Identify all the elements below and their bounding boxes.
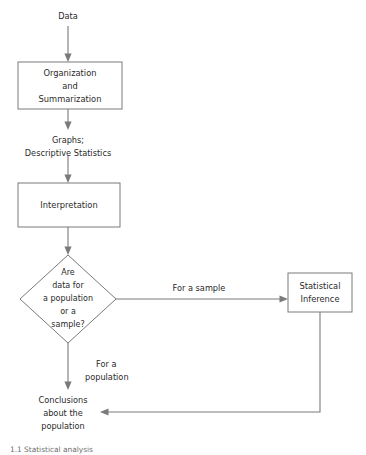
node-statistical-inference: Statistical Inference — [288, 273, 352, 312]
node-label-data: Data — [58, 11, 78, 21]
edge-organization-to-graphs — [64, 109, 71, 130]
arrow-head-icon — [64, 122, 71, 131]
edge-inference-to-conclusions — [100, 312, 320, 416]
node-label-graphs-line2: Descriptive Statistics — [25, 148, 111, 158]
node-label-decision-line3: a population — [43, 294, 93, 303]
node-label-graphs-line1: Graphs; — [52, 135, 84, 145]
arrow-head-icon — [64, 54, 71, 63]
edge-data-to-organization — [64, 26, 71, 62]
edge-decision-to-conclusions — [64, 343, 71, 390]
edge-decision-to-inference — [116, 295, 288, 302]
edge-label-for-a-population-line1: For a — [96, 359, 116, 369]
flowchart-canvas: Data Organization and Summarization Grap… — [0, 0, 366, 455]
node-label-organization-line2: and — [62, 81, 78, 91]
node-label-organization-line3: Summarization — [39, 94, 102, 104]
edge-label-for-a-population-line2: population — [85, 372, 129, 382]
node-label-inference-line2: Inference — [301, 294, 340, 304]
node-label-interpretation: Interpretation — [40, 200, 97, 210]
arrow-head-icon — [64, 382, 71, 391]
node-label-decision-line5: sample? — [51, 320, 84, 329]
node-label-inference-line1: Statistical — [300, 281, 341, 291]
node-decision-population-or-sample: Are data for a population or a sample? — [20, 255, 116, 343]
edge-interpretation-to-decision — [64, 227, 71, 255]
edge-label-for-a-sample: For a sample — [173, 283, 226, 293]
arrow-head-icon — [100, 408, 109, 415]
node-organization-summarization: Organization and Summarization — [18, 62, 122, 109]
arrow-head-icon — [64, 175, 71, 184]
node-label-conclusions-line3: population — [41, 421, 85, 431]
node-label-organization-line1: Organization — [43, 68, 96, 78]
node-label-conclusions-line2: about the — [43, 408, 83, 418]
figure-caption: 1.1 Statistical analysis — [10, 445, 93, 454]
node-label-decision-line4: or a — [60, 307, 76, 316]
node-conclusions-about-population: Conclusions about the population — [39, 395, 88, 431]
arrow-head-icon — [64, 247, 71, 256]
node-label-decision-line2: data for — [52, 281, 84, 290]
node-interpretation: Interpretation — [18, 183, 120, 227]
node-label-decision-line1: Are — [61, 268, 75, 277]
node-label-conclusions-line1: Conclusions — [39, 395, 88, 405]
flowchart-figure: Data Organization and Summarization Grap… — [0, 0, 366, 455]
node-graphs-descriptive-statistics: Graphs; Descriptive Statistics — [25, 135, 111, 158]
node-box-statistical-inference — [288, 273, 352, 312]
edge-graphs-to-interpretation — [64, 155, 71, 183]
arrow-head-icon — [280, 295, 289, 302]
